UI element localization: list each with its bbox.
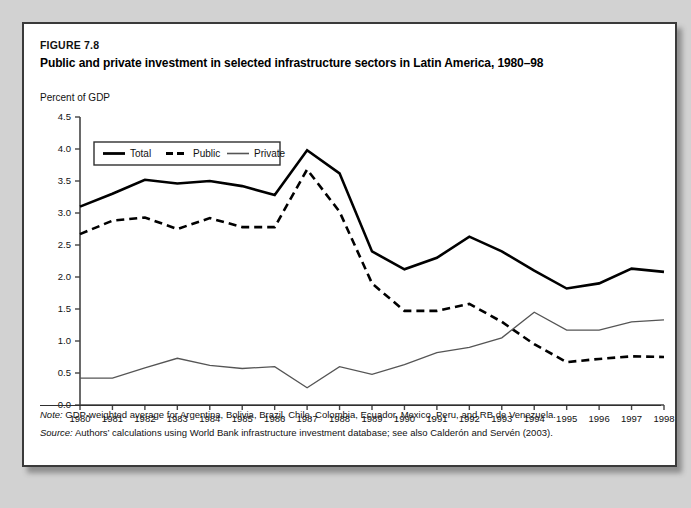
y-axis-tick-label: 3.0 (58, 207, 71, 218)
series-line-total (80, 150, 664, 288)
figure-panel: FIGURE 7.8 Public and private investment… (22, 22, 677, 467)
y-axis-tick-label: 2.0 (58, 271, 71, 282)
y-axis-tick-label: 1.0 (58, 335, 71, 346)
notes-divider (40, 405, 661, 406)
chart-area: 0.00.51.01.52.02.53.03.54.04.51980198119… (24, 24, 679, 469)
y-axis-tick-label: 1.5 (58, 303, 71, 314)
series-line-private (80, 312, 664, 388)
source-label: Source: (40, 427, 73, 438)
page-background: FIGURE 7.8 Public and private investment… (0, 0, 691, 508)
source-text: Authors’ calculations using World Bank i… (75, 427, 553, 438)
y-axis-tick-label: 4.5 (58, 111, 71, 122)
note-row: Note: GDP-weighted average for Argentina… (40, 409, 661, 421)
legend-label-private: Private (254, 148, 286, 159)
legend-label-total: Total (130, 148, 151, 159)
line-chart: 0.00.51.01.52.02.53.03.54.04.51980198119… (24, 24, 679, 424)
y-axis-tick-label: 0.5 (58, 367, 71, 378)
y-axis-tick-label: 2.5 (58, 239, 71, 250)
note-text: GDP-weighted average for Argentina, Boli… (65, 409, 556, 420)
source-row: Source: Authors’ calculations using Worl… (40, 427, 661, 439)
y-axis-tick-label: 4.0 (58, 143, 71, 154)
legend-label-public: Public (193, 148, 220, 159)
note-label: Note: (40, 409, 63, 420)
series-line-public (80, 169, 664, 362)
figure-notes: Note: GDP-weighted average for Argentina… (40, 409, 661, 445)
y-axis-tick-label: 3.5 (58, 175, 71, 186)
